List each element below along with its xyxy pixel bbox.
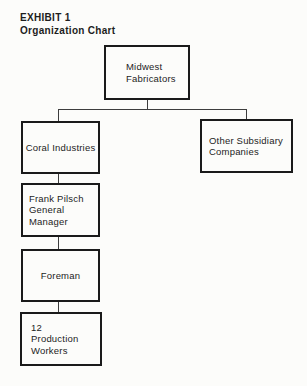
connector-manager-to-foreman bbox=[58, 236, 59, 250]
page-title: Organization Chart bbox=[20, 24, 115, 37]
node-label: Frank Pilsch General Manager bbox=[29, 193, 84, 228]
node-label: Foreman bbox=[41, 270, 80, 282]
org-node-general-manager: Frank Pilsch General Manager bbox=[21, 183, 100, 237]
org-node-coral-industries: Coral Industries bbox=[21, 121, 100, 174]
exhibit-heading: EXHIBIT 1 Organization Chart bbox=[20, 11, 115, 37]
node-label: Other Subsidiary Companies bbox=[209, 135, 283, 158]
exhibit-page: EXHIBIT 1 Organization Chart Midwest Fab… bbox=[0, 0, 307, 386]
org-node-midwest-fabricators: Midwest Fabricators bbox=[104, 45, 190, 100]
exhibit-label: EXHIBIT 1 bbox=[20, 11, 115, 24]
node-label: 12 Production Workers bbox=[31, 322, 78, 357]
org-node-other-subsidiary-companies: Other Subsidiary Companies bbox=[200, 119, 293, 173]
node-label: Coral Industries bbox=[26, 142, 96, 154]
org-node-production-workers: 12 Production Workers bbox=[20, 312, 102, 366]
connector-horizontal-branch bbox=[58, 109, 247, 110]
org-node-foreman: Foreman bbox=[21, 249, 100, 302]
node-label: Midwest Fabricators bbox=[126, 61, 176, 84]
